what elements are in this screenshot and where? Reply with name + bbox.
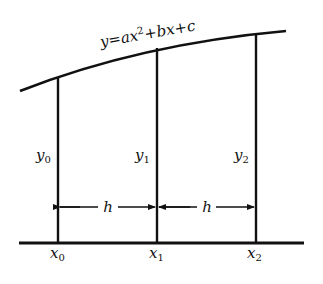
ordinate-label-0: y0 <box>35 146 51 165</box>
abscissa-label-0: x0 <box>50 244 65 263</box>
abscissa-label-1: x1 <box>149 244 164 263</box>
ordinate-label-2: y2 <box>233 146 249 165</box>
interval-label-0: h <box>103 198 113 216</box>
ordinate-label-1: y1 <box>134 146 150 165</box>
abscissa-label-2: x2 <box>247 244 262 263</box>
interval-label-1: h <box>202 198 212 216</box>
equation-rhs: +bx+c <box>143 16 198 43</box>
simpson-diagram: h h y=ax2+bx+c y0 y1 y2 x0 x1 x2 <box>0 0 323 284</box>
equation-lhs: y=ax <box>98 26 141 51</box>
